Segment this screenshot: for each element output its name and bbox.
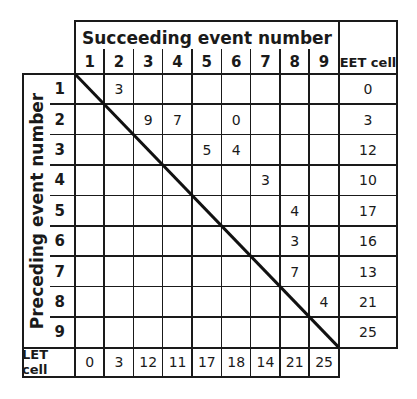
diagonal-line (0, 0, 417, 399)
